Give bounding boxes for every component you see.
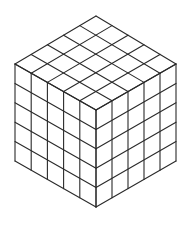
grid-line xyxy=(15,64,96,110)
grid-line xyxy=(96,64,176,110)
grid-line xyxy=(96,103,176,149)
grid-line xyxy=(15,161,96,207)
isometric-cube xyxy=(0,0,188,225)
grid-line xyxy=(15,83,96,129)
grid-line xyxy=(47,45,128,92)
grid-line xyxy=(64,35,144,82)
grid-line xyxy=(96,161,176,207)
grid-line xyxy=(31,26,112,74)
grid-line xyxy=(80,26,160,74)
grid-line xyxy=(15,122,96,168)
grid-line xyxy=(15,103,96,149)
cube-left-face xyxy=(15,64,96,207)
grid-line xyxy=(64,45,144,92)
grid-line xyxy=(96,16,176,64)
grid-line xyxy=(96,83,176,129)
grid-line xyxy=(96,142,176,188)
cube-top-face xyxy=(15,16,176,110)
grid-line xyxy=(15,142,96,188)
grid-line xyxy=(80,54,160,100)
grid-line xyxy=(15,16,96,64)
cube-right-face xyxy=(96,64,176,207)
grid-line xyxy=(31,54,112,100)
grid-line xyxy=(96,122,176,168)
grid-line xyxy=(47,35,128,82)
